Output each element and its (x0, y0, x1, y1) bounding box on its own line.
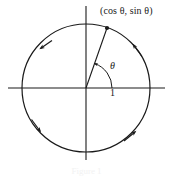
direction-arrow-lower-left (32, 120, 41, 132)
radius-length-label: 1 (110, 88, 115, 98)
terminal-point-label: (cos θ, sin θ) (100, 6, 153, 16)
radius-segment (86, 28, 107, 88)
direction-arrow-upper-right (134, 45, 143, 57)
angle-theta-label: θ (110, 61, 115, 71)
direction-arrow-lower-right (124, 132, 135, 141)
unit-circle-figure: (cos θ, sin θ) θ 1 Figure 1 (0, 0, 173, 177)
figure-canvas (0, 0, 173, 177)
figure-caption: Figure 1 (0, 167, 173, 176)
terminal-point-dot (105, 26, 109, 30)
